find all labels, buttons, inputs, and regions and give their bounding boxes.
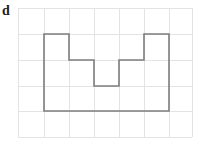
shape-layer — [0, 0, 214, 141]
polygon-shape-d — [44, 34, 169, 111]
figure-panel: d — [0, 0, 214, 141]
